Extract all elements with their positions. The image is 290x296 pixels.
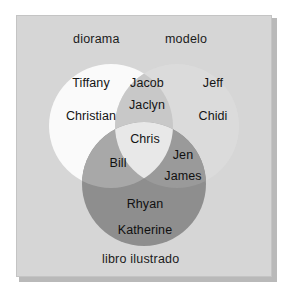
set-label-libro-ilustrado: libro ilustrado: [102, 252, 179, 266]
venn-item-rhyan: Rhyan: [127, 197, 164, 211]
venn-diagram-image: diorama modelo libro ilustrado Tiffany C…: [0, 0, 290, 296]
venn-item-james: James: [164, 169, 201, 183]
venn-item-jacob: Jacob: [130, 76, 164, 90]
venn-item-chris: Chris: [130, 132, 160, 146]
venn-circles: [17, 16, 271, 276]
diagram-panel: diorama modelo libro ilustrado Tiffany C…: [16, 15, 272, 277]
venn-item-jen: Jen: [173, 148, 193, 162]
venn-item-tiffany: Tiffany: [72, 76, 110, 90]
set-label-diorama: diorama: [73, 32, 120, 46]
venn-item-katherine: Katherine: [118, 223, 172, 237]
venn-item-christian: Christian: [66, 109, 116, 123]
venn-item-jeff: Jeff: [203, 76, 223, 90]
set-label-modelo: modelo: [165, 32, 207, 46]
venn-item-jaclyn: Jaclyn: [129, 98, 165, 112]
venn-item-chidi: Chidi: [199, 109, 228, 123]
venn-item-bill: Bill: [109, 156, 126, 170]
